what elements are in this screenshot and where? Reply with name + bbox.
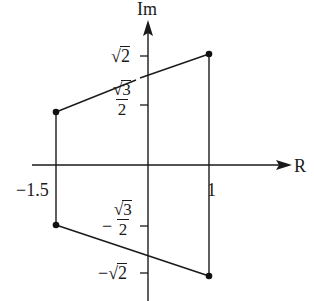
imaginary-axis-label: Im xyxy=(137,0,157,18)
radicand: 3 xyxy=(121,80,131,98)
radicand: 2 xyxy=(120,46,130,65)
vertex-bottom-left-dot xyxy=(53,222,60,229)
denominator: 2 xyxy=(117,219,130,238)
y-tick-neg-sign: − xyxy=(102,217,112,235)
y-tick-label-sqrt3-over-2: √3 2 xyxy=(112,80,132,118)
denominator: 2 xyxy=(116,99,129,118)
sign: − xyxy=(98,263,108,283)
vertex-top-left xyxy=(53,109,60,116)
x-tick-label-1: 1 xyxy=(207,181,216,199)
x-tick-label-neg1.5: −1.5 xyxy=(16,181,49,199)
radicand: 2 xyxy=(117,263,127,282)
vertex-bottom-right xyxy=(206,273,213,280)
complex-plane-diagram xyxy=(0,0,314,301)
real-axis-label: R xyxy=(294,157,306,175)
y-tick-label-neg-sqrt3-over-2: √3 2 xyxy=(113,200,133,238)
y-tick-label-sqrt2: √2 xyxy=(111,46,130,65)
y-tick-label-neg-sqrt2: −√2 xyxy=(98,263,127,282)
radicand: 3 xyxy=(122,200,132,218)
vertex-top-right xyxy=(206,51,213,58)
edge-top-right xyxy=(140,54,209,78)
